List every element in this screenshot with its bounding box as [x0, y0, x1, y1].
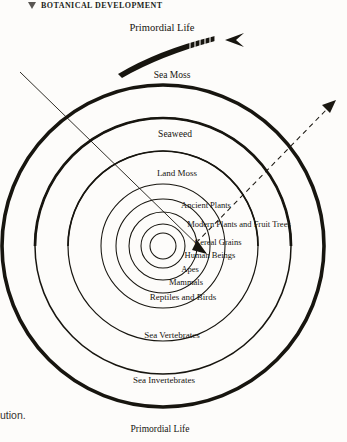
ring-seaweed-upper	[35, 118, 291, 246]
solid-diagonal-line	[20, 72, 206, 253]
caption-fragment: ution.	[0, 409, 26, 421]
dashed-arrow-outward	[196, 106, 330, 243]
botanical-development-diagram-page: BOTANICAL DEVELOPMENT	[0, 0, 347, 442]
tapered-arrow-hatch-icon	[190, 35, 220, 49]
ring-cereal-grains	[150, 233, 176, 259]
tapered-arrow-head-icon	[225, 33, 244, 47]
dashed-arrow-head-icon	[322, 100, 336, 113]
ring-sea-vertebrates	[68, 151, 258, 341]
concentric-rings-diagram	[0, 0, 347, 442]
ring-human-beings	[141, 224, 185, 268]
ring-primordial-life	[2, 85, 324, 407]
ring-apes	[129, 212, 197, 280]
ring-reptiles-and-birds	[101, 184, 225, 308]
